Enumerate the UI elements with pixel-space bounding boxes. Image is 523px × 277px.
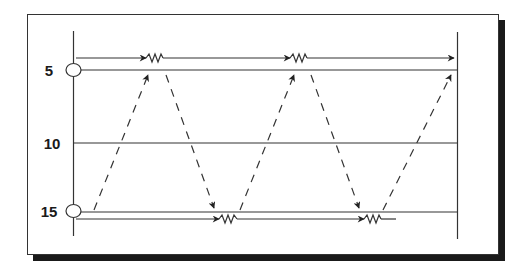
- level-label-5: 5: [45, 62, 53, 79]
- level-label-15: 15: [41, 203, 58, 220]
- node-circle-5: [66, 64, 81, 77]
- level-label-10: 10: [44, 135, 61, 152]
- diagram-canvas: 5 10 15: [0, 0, 523, 277]
- node-circle-15: [66, 205, 81, 218]
